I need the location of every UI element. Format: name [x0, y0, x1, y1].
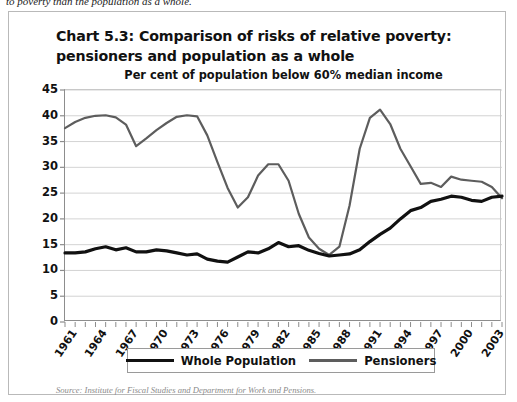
series-line-whole-population — [65, 196, 502, 262]
legend-line-swatch — [309, 359, 357, 362]
y-tick-label: 0 — [24, 314, 58, 328]
y-tick-label: 25 — [24, 185, 58, 199]
plot-area: Per cent of population below 60% median … — [64, 89, 501, 321]
y-tick-label: 15 — [24, 237, 58, 251]
y-tick-label: 10 — [24, 262, 58, 276]
preceding-body-text: to poverty than the population as a whol… — [6, 0, 256, 7]
x-tick-label: 1961 — [52, 327, 80, 360]
x-tick-label: 2003 — [479, 327, 507, 360]
legend-entry-whole-population[interactable]: Whole Population — [126, 354, 296, 368]
chart-canvas — [65, 90, 502, 322]
x-tick-label: 1964 — [82, 327, 110, 360]
chart-legend: Whole PopulationPensioners — [127, 348, 435, 373]
legend-label: Whole Population — [181, 354, 296, 368]
chart-figure-page: to poverty than the population as a whol… — [0, 0, 517, 402]
y-tick-label: 5 — [24, 288, 58, 302]
x-tick-label: 2000 — [448, 327, 476, 360]
y-tick-label: 35 — [24, 134, 58, 148]
legend-label: Pensioners — [364, 354, 436, 368]
y-axis-tick-labels: 051015202530354045 — [22, 89, 58, 321]
legend-entry-pensioners[interactable]: Pensioners — [309, 354, 436, 368]
y-tick-label: 30 — [24, 159, 58, 173]
y-tick-label: 40 — [24, 108, 58, 122]
legend-line-swatch — [126, 359, 174, 362]
series-line-pensioners — [65, 110, 502, 255]
y-tick-label: 20 — [24, 211, 58, 225]
y-tick-label: 45 — [24, 82, 58, 96]
plot-annotation: Per cent of population below 60% median … — [65, 68, 502, 82]
source-note: Source: Institute for Fiscal Studies and… — [56, 385, 476, 395]
chart-title: Chart 5.3: Comparison of risks of relati… — [56, 26, 486, 66]
figure-box: Chart 5.3: Comparison of risks of relati… — [8, 11, 506, 395]
